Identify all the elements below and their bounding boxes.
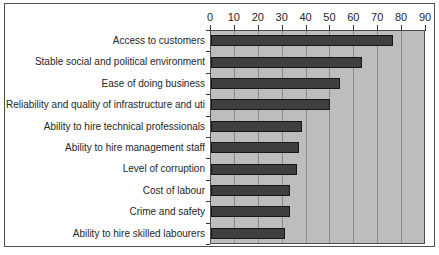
bar: [211, 57, 362, 68]
category-label: Cost of labour: [6, 180, 205, 201]
category-label: Reliability and quality of infrastructur…: [6, 94, 205, 115]
bar: [211, 164, 297, 175]
category-label: Level of corruption: [6, 158, 205, 179]
x-axis-tick: [425, 25, 426, 31]
bar: [211, 121, 302, 132]
bar: [211, 206, 290, 217]
bar: [211, 142, 299, 153]
category-label: Access to customers: [6, 30, 205, 51]
category-label: Ability to hire skilled labourers: [6, 223, 205, 244]
plot-area: [210, 30, 425, 244]
bar-chart: 0102030405060708090 Access to customersS…: [0, 0, 439, 255]
bar: [211, 35, 393, 46]
bar: [211, 228, 285, 239]
gridline: [401, 31, 402, 243]
x-axis-tick-label: 90: [410, 11, 439, 23]
bar: [211, 185, 290, 196]
bar: [211, 99, 330, 110]
category-label: Ease of doing business: [6, 73, 205, 94]
category-label: Ability to hire management staff: [6, 137, 205, 158]
bar: [211, 78, 340, 89]
category-label: Ability to hire technical professionals: [6, 116, 205, 137]
gridline: [377, 31, 378, 243]
category-label: Crime and safety: [6, 201, 205, 222]
category-label: Stable social and political environment: [6, 51, 205, 72]
y-axis-tick: [206, 244, 210, 245]
